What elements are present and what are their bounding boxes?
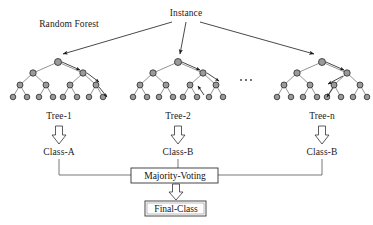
tree-node [357, 82, 363, 88]
decision-path-arrow [207, 73, 219, 81]
tree-leaf-node [364, 94, 370, 100]
decision-path-arrow [326, 62, 344, 70]
tree-2-edges [133, 62, 223, 97]
tree-node [331, 82, 337, 88]
random-forest-diagram: Instance Random Forest Tree-1 Tree-2 Tre… [0, 0, 373, 225]
tree-node [213, 82, 219, 88]
tree-n-decision-path-arrows [326, 62, 344, 97]
tree-2-nodes [130, 59, 226, 100]
tree-node [80, 70, 86, 76]
tree-1-nodes [10, 59, 106, 100]
tree-leaf-node [50, 94, 56, 100]
tree-leaf-node [86, 94, 92, 100]
tree-1-edges [13, 62, 103, 97]
tree-2-label: Tree-2 [165, 112, 191, 122]
tree-leaf-node [338, 94, 344, 100]
tree-node [30, 70, 36, 76]
decision-path-arrow [198, 86, 204, 95]
tree-2-graphic [130, 59, 226, 100]
tree-node [307, 82, 313, 88]
tree-node [281, 82, 287, 88]
decision-path-arrow [182, 62, 200, 70]
connector-class-b-right [218, 159, 322, 175]
arrow-instance-to-tree-n [200, 22, 314, 54]
block-arrow-tree-2 [171, 126, 185, 144]
tree-leaf-node [180, 94, 186, 100]
tree-to-class-block-arrows [52, 126, 329, 144]
tree-leaf-node [144, 94, 150, 100]
tree-node [344, 70, 350, 76]
tree-1-prediction-label: Class-A [43, 148, 74, 158]
tree-leaf-node [300, 94, 306, 100]
tree-leaf-node [220, 94, 226, 100]
tree-node [175, 59, 182, 66]
majority-voting-label: Majority-Voting [144, 171, 206, 181]
tree-leaf-node [170, 94, 176, 100]
tree-n-edges [277, 62, 367, 97]
instance-label: Instance [170, 9, 202, 19]
tree-node [319, 59, 326, 66]
tree-leaf-node [10, 94, 16, 100]
block-arrow-voting-to-final [169, 184, 183, 200]
tree-node [67, 82, 73, 88]
tree-leaf-node [314, 94, 320, 100]
tree-leaf-node [194, 94, 200, 100]
tree-leaf-node [130, 94, 136, 100]
tree-node [163, 82, 169, 88]
tree-node [200, 70, 206, 76]
tree-leaf-node [36, 94, 42, 100]
tree-node [137, 82, 143, 88]
tree-leaf-node [206, 94, 212, 100]
tree-2-prediction-label: Class-B [163, 148, 194, 158]
tree-node [43, 82, 49, 88]
arrow-instance-to-tree-2 [180, 22, 186, 54]
tree-node [17, 82, 23, 88]
tree-1-graphic [10, 59, 107, 100]
ellipsis-dots [240, 79, 252, 81]
tree-node [150, 70, 156, 76]
tree-leaf-node [274, 94, 280, 100]
tree-n-graphic [274, 59, 370, 100]
tree-node [294, 70, 300, 76]
connector-class-a [59, 159, 131, 175]
tree-leaf-node [60, 94, 66, 100]
tree-n-label: Tree-n [309, 112, 335, 122]
tree-node [187, 82, 193, 88]
tree-leaf-node [74, 94, 80, 100]
block-arrow-tree-n [315, 126, 329, 144]
decision-path-arrow [62, 62, 80, 70]
tree-1-label: Tree-1 [46, 112, 72, 122]
tree-node [55, 59, 62, 66]
random-forest-label: Random Forest [39, 20, 99, 30]
decision-path-arrow [87, 73, 99, 82]
tree-leaf-node [288, 94, 294, 100]
tree-leaf-node [24, 94, 30, 100]
instance-to-trees-arrows [63, 22, 314, 54]
tree-leaf-node [156, 94, 162, 100]
tree-n-prediction-label: Class-B [307, 148, 338, 158]
block-arrow-tree-1 [52, 126, 66, 144]
final-class-label: Final-Class [154, 204, 197, 214]
tree-n-nodes [274, 59, 370, 100]
tree-leaf-node [350, 94, 356, 100]
decision-path-arrow [327, 88, 333, 97]
tree-node [93, 82, 99, 88]
